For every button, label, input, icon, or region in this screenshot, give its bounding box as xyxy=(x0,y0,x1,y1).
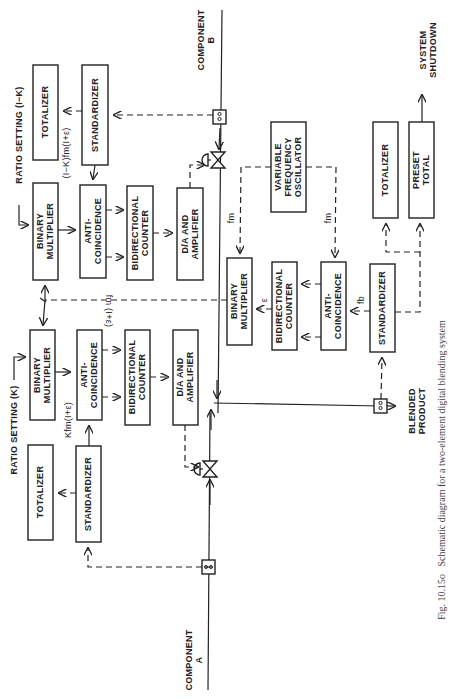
flowmeter-a-icon xyxy=(202,560,215,574)
b-bidirectional-counter-label: BIDIRECTIONALCOUNTER xyxy=(130,196,150,270)
k-fm-signal-label: Kfm(I+ε) xyxy=(63,402,73,438)
a-binary-multiplier-label: BINARYMULTIPLIER xyxy=(32,347,52,403)
eps-signal-label: ε xyxy=(259,298,269,302)
component-b-label: COMPONENTB xyxy=(196,9,216,70)
figure-caption: Fig. 10.15o Schematic diagram for a two-… xyxy=(437,320,447,620)
control-valve-b-icon xyxy=(202,152,225,168)
flowmeter-blended-icon xyxy=(374,399,387,413)
a-totalizer-label: TOTALIZER xyxy=(35,466,45,518)
component-a-pipe xyxy=(208,413,210,690)
a-da-amplifier-label: D/A ANDAMPLIFIER xyxy=(175,351,195,402)
ratio-setting-k-label: RATIO SETTING (K) xyxy=(9,386,19,475)
fm-signal-label-1: fm xyxy=(226,213,236,224)
flowmeter-b-icon xyxy=(213,110,226,124)
blended-product-pipe xyxy=(214,403,380,406)
blended-product-label: BLENDEDPRODUCT xyxy=(407,388,427,435)
p-preset-total-label: PRESETTOTAL xyxy=(411,151,431,189)
system-shutdown-label: SYSTEMSHUTDOWN xyxy=(418,22,438,77)
b-binary-multiplier-label: BINARYMULTIPLIER xyxy=(35,203,55,259)
p-anticoincidence-label: ANTI-COINCIDENCE xyxy=(323,273,343,339)
ratio-setting-1-k-label: RATIO SETTING (I−K) xyxy=(14,86,24,183)
1-k-fm-signal-label: (I−K)fm(I+ε) xyxy=(61,127,71,178)
component-b-pipe xyxy=(218,10,222,413)
b-standardizer-label: STANDARDIZER xyxy=(90,78,100,152)
vfo-label: VARIABLEFREQUENCYOSCILLATOR xyxy=(273,137,303,198)
p-bidirectional-counter-label: BIDIRECTIONALCOUNTER xyxy=(274,269,294,343)
b-anticoincidence-label: ANTI-COINCIDENCE xyxy=(83,198,103,264)
fm-eps-signal-label: fm (I+ε) xyxy=(104,295,114,328)
a-standardizer-label: STANDARDIZER xyxy=(83,457,93,531)
p-totalizer-label: TOTALIZER xyxy=(380,144,390,196)
blending-schematic xyxy=(0,0,455,699)
p-standardizer-label: STANDARDIZER xyxy=(377,271,387,345)
component-a-label: COMPONENTA xyxy=(184,629,204,690)
a-anticoincidence-label: ANTI-COINCIDENCE xyxy=(79,342,99,408)
control-valve-a-icon xyxy=(194,461,217,477)
a-bidirectional-counter-label: BIDIRECTIONALCOUNTER xyxy=(127,340,147,414)
p-binary-multiplier-label: BINARYMULTIPLIER xyxy=(229,273,249,329)
b-da-amplifier-label: D/A ANDAMPLIFIER xyxy=(180,208,200,259)
fb-signal-label: fb xyxy=(356,296,366,304)
b-totalizer-label: TOTALIZER xyxy=(40,86,50,138)
fm-signal-label-2: fm xyxy=(323,213,333,224)
